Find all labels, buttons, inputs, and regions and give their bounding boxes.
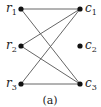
- label-c1: c1: [85, 1, 97, 17]
- label-r2: r2: [6, 38, 17, 54]
- label-c3: c3: [85, 76, 97, 92]
- node-r2: [18, 43, 23, 48]
- node-c2: [77, 43, 82, 48]
- label-r3: r3: [6, 76, 17, 92]
- labels: r1 r2 r3 c1 c2 c3 (a): [6, 1, 97, 107]
- node-c3: [77, 81, 82, 86]
- bipartite-graph: r1 r2 r3 c1 c2 c3 (a): [0, 0, 101, 107]
- label-c2: c2: [85, 38, 97, 54]
- node-r3: [18, 81, 23, 86]
- edge-r2-c3: [21, 46, 80, 84]
- node-c1: [77, 6, 82, 11]
- node-r1: [18, 6, 23, 11]
- caption: (a): [42, 94, 57, 107]
- edges: [21, 9, 80, 84]
- label-r1: r1: [6, 1, 17, 17]
- edge-r2-c1: [21, 9, 80, 46]
